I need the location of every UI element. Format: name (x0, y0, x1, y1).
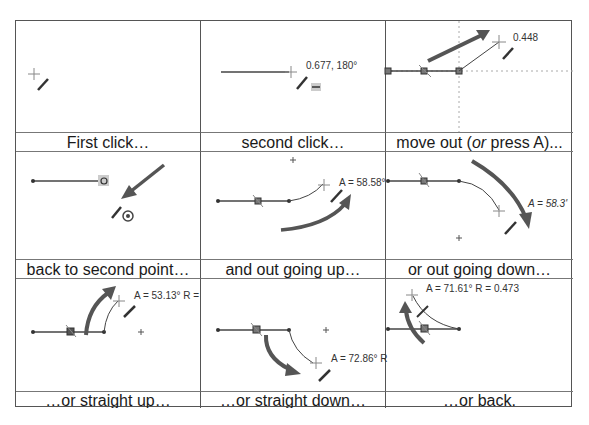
panel-second-click: 0.677, 180° (201, 21, 386, 132)
direction-arrow-icon (121, 165, 164, 199)
panel-move-out: 0.448 (386, 21, 573, 132)
straight-up-drawing: A = 53.13° R = (16, 279, 201, 391)
target-icon (123, 211, 133, 221)
panel-back: A = 71.61° R = 0.473 (386, 279, 573, 391)
angle-radius-label: A = 71.61° R = 0.473 (426, 283, 519, 294)
arc-segment (289, 184, 323, 201)
second-click-drawing: 0.677, 180° (201, 21, 386, 132)
crosshair-cursor-icon (406, 289, 418, 301)
caption-move-out: move out (or press A)... (386, 132, 573, 152)
pencil-cursor-icon (112, 207, 121, 218)
back-drawing: A = 71.61° R = 0.473 (386, 279, 573, 391)
midpoint-marker (421, 68, 427, 74)
angle-radius-label: A = 72.86° R (331, 353, 388, 364)
panel-straight-up: A = 53.13° R = (16, 279, 201, 391)
pencil-cursor-icon (297, 77, 307, 89)
angle-label: A = 58.58° (339, 177, 386, 188)
pencil-cursor-icon (38, 79, 48, 90)
direction-arrow-icon (472, 161, 532, 229)
move-out-drawing: 0.448 (386, 21, 573, 132)
pencil-cursor-icon (503, 48, 513, 59)
panel-out-going-down: A = 58.3' (386, 152, 573, 259)
panel-straight-down: A = 72.86° R (201, 279, 386, 391)
arc-segment (289, 330, 313, 363)
crosshair-cursor-icon (28, 68, 40, 80)
out-going-down-drawing: A = 58.3' (386, 152, 573, 259)
crosshair-cursor-icon (113, 295, 125, 307)
direction-arrow-icon (281, 194, 351, 230)
caption-straight-down: …or straight down… (201, 391, 386, 408)
arc-segment (459, 181, 499, 210)
caption-straight-up: …or straight up… (16, 391, 201, 408)
direction-arrow-icon (266, 335, 301, 376)
crosshair-cursor-icon (492, 35, 506, 49)
first-click-drawing (16, 21, 201, 132)
pencil-cursor-icon (124, 306, 135, 317)
out-going-up-drawing: A = 58.58° (201, 152, 386, 259)
panel-first-click (16, 21, 201, 132)
pencil-cursor-icon (417, 306, 428, 317)
caption-second-click: second click… (201, 132, 386, 152)
straight-down-drawing: A = 72.86° R (201, 279, 386, 391)
panel-back-to-second (16, 152, 201, 259)
caption-text: move out ( (396, 134, 472, 151)
caption-back: …or back. (386, 391, 573, 408)
pencil-cursor-icon (505, 222, 516, 234)
caption-out-going-up: and out going up… (201, 259, 386, 279)
arc-segment (413, 296, 459, 329)
crosshair-cursor-icon (285, 66, 297, 78)
arc-segment (104, 301, 118, 332)
caption-out-going-down: or out going down… (386, 259, 573, 279)
caption-first-click: First click… (16, 132, 201, 152)
panel-out-going-up: A = 58.58° (201, 152, 386, 259)
crosshair-cursor-icon (310, 357, 322, 369)
caption-emphasis: or (472, 134, 486, 151)
caption-text: press A)... (486, 134, 562, 151)
caption-back-to-second: back to second point… (16, 259, 201, 279)
length-angle-label: 0.677, 180° (306, 60, 357, 71)
pencil-cursor-icon (319, 370, 330, 381)
back-to-second-drawing (16, 152, 201, 259)
pencil-cursor-icon (331, 190, 342, 202)
length-label: 0.448 (513, 32, 538, 43)
angle-radius-label: A = 53.13° R = (134, 290, 199, 301)
crosshair-cursor-icon (493, 205, 505, 217)
direction-arrow-icon (86, 286, 116, 335)
tutorial-grid: 0.677, 180° 0.448 First (15, 20, 572, 407)
angle-label: A = 58.3' (527, 198, 568, 209)
crosshair-cursor-icon (318, 179, 330, 191)
